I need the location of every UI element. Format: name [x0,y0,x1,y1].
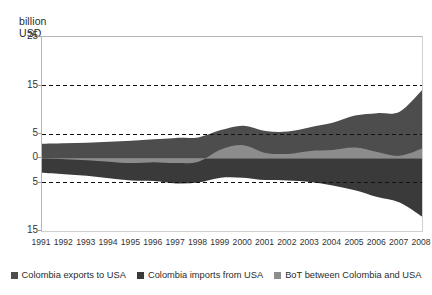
chart-container: billion USD 251550515 199119921993199419… [0,0,432,295]
y-axis-tick-label: 15 [8,225,38,235]
y-axis-tick-label: 5 [8,128,38,138]
legend-item[interactable]: Colombia imports from USA [137,270,263,281]
y-axis-tick-label: 25 [8,31,38,41]
y-axis-tick-label: 0 [8,152,38,162]
x-axis-tick-label: 2008 [404,236,432,248]
legend-item[interactable]: Colombia exports to USA [11,270,126,281]
y-axis-tick-label: 5 [8,177,38,187]
x-axis-labels: 1991199219931994199519961997199819992000… [41,236,423,250]
chart-legend: Colombia exports to USAColombia imports … [0,270,432,281]
legend-swatch-icon [137,272,144,279]
area-chart-svg [42,37,422,231]
plot-area [41,36,423,232]
legend-swatch-icon [274,272,281,279]
plot-inner [42,37,422,231]
legend-item[interactable]: BoT between Colombia and USA [274,270,421,281]
y-axis-tick-label: 15 [8,80,38,90]
area-imports [42,158,422,216]
legend-label: BoT between Colombia and USA [285,270,421,281]
legend-label: Colombia imports from USA [148,270,263,281]
legend-label: Colombia exports to USA [22,270,126,281]
legend-swatch-icon [11,272,18,279]
